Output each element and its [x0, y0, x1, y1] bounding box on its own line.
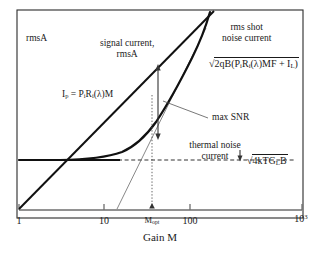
thermal-formula-lead: 4kTG — [253, 155, 276, 166]
max-snr-label: max SNR — [212, 112, 249, 123]
signal-current-label-line2: rmsA — [100, 49, 154, 60]
signal-current-label-line1: signal current, — [100, 38, 154, 49]
shot-noise-label: rms shot noise current — [222, 22, 271, 43]
m-opt-axis-marker — [149, 203, 155, 209]
thermal-noise-label: thermal noise current — [186, 140, 244, 161]
x-axis-ticks — [19, 204, 302, 210]
tick-1000-base: 10 — [294, 213, 304, 224]
ip-lhs-sub: p — [65, 92, 68, 99]
shot-noise-label-line2: noise current — [222, 33, 271, 44]
x-tick-label-100: 100 — [183, 215, 198, 226]
y-axis-unit-label: rmsA — [26, 33, 47, 44]
shot-formula-r: R — [242, 58, 249, 69]
mopt-base: M — [145, 215, 153, 225]
signal-current-label: signal current, rmsA — [100, 38, 154, 59]
photocurrent-equation: Ip = PiRi(λ)M — [62, 89, 113, 100]
ip-lambda-m: (λ)M — [94, 89, 113, 99]
x-axis-title: Gain M — [143, 231, 177, 243]
shot-formula-lead: 2qB(P — [215, 58, 241, 69]
thermal-formula-tail: B — [280, 155, 287, 166]
mopt-sub: opt — [152, 219, 159, 225]
thermal-noise-label-line2: current — [186, 151, 244, 162]
x-tick-label-1: 1 — [17, 215, 22, 226]
shot-formula-tail: ) — [295, 58, 298, 69]
ip-equals: = — [71, 89, 76, 99]
figure-container: rmsA signal current, rmsA rms shot noise… — [0, 0, 329, 255]
x-tick-label-mopt: Mopt — [145, 216, 160, 226]
thermal-noise-label-line1: thermal noise — [186, 140, 244, 151]
max-snr-arrow — [155, 64, 160, 140]
x-tick-label-1000: 103 — [294, 213, 307, 224]
shot-noise-formula: √2qB(PiRi(λ)MF + IL) — [209, 58, 299, 70]
shot-noise-curve — [19, 12, 210, 160]
chart-canvas — [0, 0, 329, 255]
tick-1000-exponent: 3 — [304, 213, 307, 220]
x-tick-label-10: 10 — [99, 215, 109, 226]
max-snr-leader-line — [163, 101, 208, 118]
shot-formula-mid: (λ)MF + I — [251, 58, 291, 69]
shot-noise-label-line1: rms shot — [222, 22, 271, 33]
thermal-noise-formula: √4kTGLB — [247, 155, 288, 167]
